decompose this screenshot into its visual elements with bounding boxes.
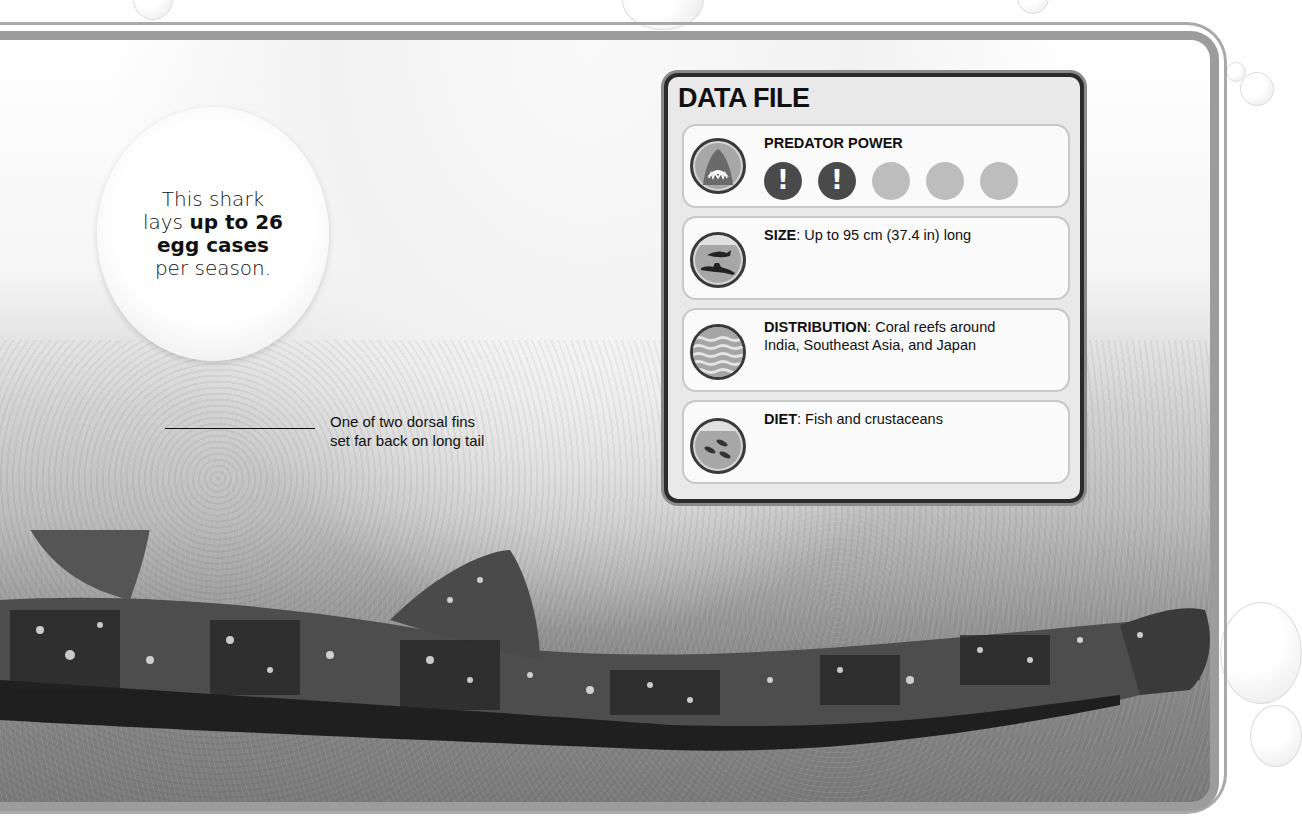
rating-dot-empty-icon	[926, 162, 964, 200]
diver-and-shark-icon	[690, 232, 746, 288]
data-file-panel: DATA FILE PREDATOR POWER SIZE: Up	[664, 73, 1084, 503]
fact-line-2-pre: lays	[143, 210, 189, 234]
size-value: : Up to 95 cm (37.4 in) long	[796, 227, 971, 243]
rating-dot-filled-icon	[764, 162, 802, 200]
decor-bubble	[133, 0, 173, 20]
size-row: SIZE: Up to 95 cm (37.4 in) long	[682, 216, 1070, 300]
fact-line-4: per season.	[128, 257, 298, 280]
distribution-row: DISTRIBUTION: Coral reefs around India, …	[682, 308, 1070, 392]
shark-photo	[0, 530, 1210, 760]
fact-line-3: egg cases	[128, 234, 298, 257]
rating-dot-empty-icon	[872, 162, 910, 200]
decor-bubble	[1017, 0, 1049, 14]
fact-line-2-bold: up to 26	[189, 210, 283, 234]
annotation-leader-line	[165, 428, 315, 429]
diet-text: DIET: Fish and crustaceans	[764, 410, 943, 428]
annotation-line-1: One of two dorsal fins	[330, 412, 484, 431]
predator-power-label-text: PREDATOR POWER	[764, 135, 903, 151]
data-file-title: DATA FILE	[678, 83, 809, 114]
diet-value: : Fish and crustaceans	[797, 411, 943, 427]
fact-line-2: lays up to 26	[128, 211, 298, 234]
size-label: SIZE	[764, 227, 796, 243]
annotation-line-2: set far back on long tail	[330, 431, 484, 450]
decor-bubble	[1250, 705, 1302, 767]
distribution-value-line-1: : Coral reefs around	[867, 319, 995, 335]
fish-school-icon	[690, 418, 746, 474]
fact-bubble: This shark lays up to 26 egg cases per s…	[97, 107, 329, 361]
waves-icon	[690, 324, 746, 380]
rating-dot-filled-icon	[818, 162, 856, 200]
fact-line-3-bold: egg cases	[157, 233, 269, 257]
distribution-value-line-2: India, Southeast Asia, and Japan	[764, 336, 995, 354]
predator-power-label: PREDATOR POWER	[764, 134, 903, 152]
decor-bubble	[1240, 72, 1274, 106]
size-text: SIZE: Up to 95 cm (37.4 in) long	[764, 226, 971, 244]
predator-power-row: PREDATOR POWER	[682, 124, 1070, 208]
diet-row: DIET: Fish and crustaceans	[682, 400, 1070, 484]
distribution-label: DISTRIBUTION	[764, 319, 867, 335]
shark-jaws-icon	[690, 138, 746, 194]
fact-bubble-text: This shark lays up to 26 egg cases per s…	[128, 188, 298, 280]
distribution-text: DISTRIBUTION: Coral reefs around India, …	[764, 318, 995, 354]
diet-label: DIET	[764, 411, 797, 427]
predator-power-rating	[764, 162, 1018, 200]
decor-bubble	[1220, 602, 1302, 704]
dorsal-fin-annotation: One of two dorsal fins set far back on l…	[330, 412, 484, 450]
fact-line-1: This shark	[128, 188, 298, 211]
rating-dot-empty-icon	[980, 162, 1018, 200]
